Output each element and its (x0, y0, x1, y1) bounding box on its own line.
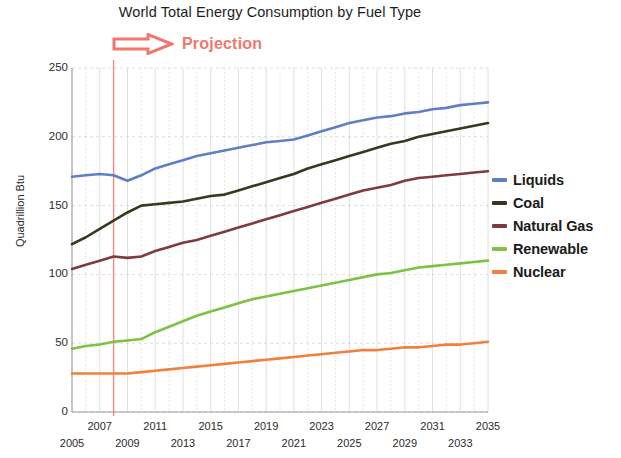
x-tick-label: 2015 (198, 421, 222, 432)
legend-swatch-icon (492, 201, 507, 205)
legend-swatch-icon (492, 270, 507, 274)
y-tick-label: 50 (34, 337, 68, 349)
x-tick-label: 2029 (393, 438, 417, 449)
x-tick-label: 2017 (226, 438, 250, 449)
right-arrow-icon (112, 33, 174, 55)
x-tick-label: 2023 (309, 421, 333, 432)
x-tick-label: 2031 (420, 421, 444, 432)
projection-label: Projection (182, 35, 262, 53)
y-tick-label: 0 (34, 406, 68, 418)
grid-vertical (72, 68, 488, 412)
x-axis-ticks: 2005200920132017202120252029203320072011… (72, 416, 488, 458)
legend-item-renewable[interactable]: Renewable (492, 237, 621, 260)
plot-svg (72, 68, 488, 412)
y-tick-label: 100 (34, 268, 68, 280)
x-tick-label: 2025 (337, 438, 361, 449)
x-tick-label: 2007 (87, 421, 111, 432)
legend-swatch-icon (492, 224, 507, 228)
y-tick-label: 250 (34, 62, 68, 74)
x-tick-label: 2013 (171, 438, 195, 449)
plot-area (72, 68, 488, 412)
projection-annotation: Projection (112, 33, 262, 55)
chart-title: World Total Energy Consumption by Fuel T… (0, 4, 540, 20)
chart-container: World Total Energy Consumption by Fuel T… (0, 0, 621, 458)
x-tick-label: 2019 (254, 421, 278, 432)
x-tick-label: 2033 (448, 438, 472, 449)
legend-label: Coal (513, 195, 544, 211)
x-tick-label: 2027 (365, 421, 389, 432)
legend-item-coal[interactable]: Coal (492, 191, 621, 214)
legend-item-nuclear[interactable]: Nuclear (492, 260, 621, 283)
x-tick-label: 2009 (115, 438, 139, 449)
y-axis-title: Quadrillion Btu (14, 151, 26, 271)
legend-item-liquids[interactable]: Liquids (492, 168, 621, 191)
y-tick-label: 150 (34, 200, 68, 212)
legend-label: Renewable (513, 241, 588, 257)
x-tick-label: 2005 (60, 438, 84, 449)
legend-item-natural-gas[interactable]: Natural Gas (492, 214, 621, 237)
x-tick-label: 2011 (143, 421, 167, 432)
legend-swatch-icon (492, 247, 507, 251)
y-tick-label: 200 (34, 131, 68, 143)
x-tick-label: 2035 (476, 421, 500, 432)
chart-legend: LiquidsCoalNatural GasRenewableNuclear (492, 168, 621, 283)
legend-label: Liquids (513, 172, 564, 188)
legend-swatch-icon (492, 178, 507, 182)
legend-label: Natural Gas (513, 218, 593, 234)
x-tick-label: 2021 (282, 438, 306, 449)
y-axis-ticks: 050100150200250 (30, 68, 68, 412)
legend-label: Nuclear (513, 264, 566, 280)
